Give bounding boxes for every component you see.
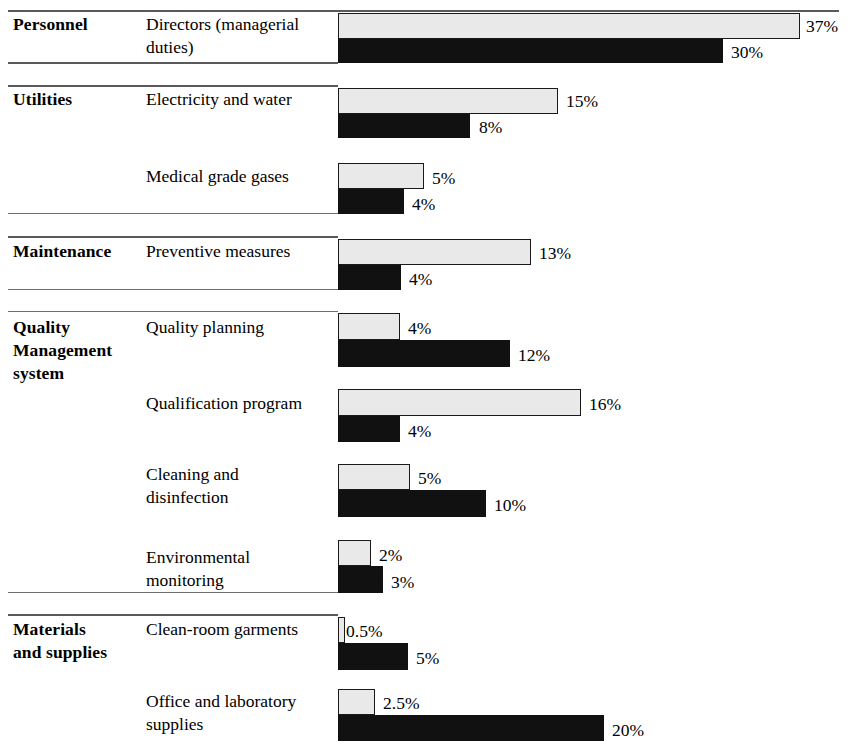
bar-office-light: [338, 689, 375, 715]
bar-quality-planning-dark: [338, 340, 510, 367]
section-rule-materials-top: [8, 614, 338, 616]
bar-directors-light: [338, 13, 800, 39]
bar-environmental-dark: [338, 566, 383, 593]
section-rule-qms-bottom: [8, 592, 338, 593]
group-label-maintenance-text: Maintenance: [13, 241, 111, 261]
bar-value-environmental-dark: 3%: [391, 574, 414, 592]
bar-qualification-dark: [338, 416, 400, 442]
section-rule-maintenance-top: [8, 236, 338, 238]
section-rule-personnel-bottom: [8, 62, 338, 64]
item-label-medical-grade-gases: Medical grade gases: [146, 165, 336, 188]
bar-directors-dark: [338, 39, 723, 63]
item-label-electricity-line1: Electricity and water: [146, 88, 336, 111]
group-label-utilities: Utilities: [13, 88, 141, 111]
bar-office-dark: [338, 715, 604, 741]
section-rule-top: [8, 10, 839, 12]
section-rule-maintenance-bottom: [8, 289, 338, 290]
group-label-materials-and-supplies: Materials and supplies: [13, 618, 141, 664]
group-label-qms-line3: system: [13, 362, 141, 385]
item-label-preventive-line1: Preventive measures: [146, 240, 336, 263]
item-label-environmental-line2: monitoring: [146, 569, 336, 592]
group-label-qms-line1: Quality: [13, 316, 141, 339]
bar-value-qualification-dark: 4%: [408, 423, 431, 441]
group-label-personnel: Personnel: [13, 13, 141, 36]
item-label-directors-line2: duties): [146, 36, 341, 59]
grouped-horizontal-bar-chart: Personnel Utilities Maintenance Quality …: [0, 0, 847, 741]
item-label-cleaning-and-disinfection: Cleaning and disinfection: [146, 463, 336, 509]
bar-value-quality-planning-dark: 12%: [518, 347, 550, 365]
item-label-office-line1: Office and laboratory: [146, 690, 336, 713]
item-label-quality-planning: Quality planning: [146, 316, 336, 339]
bar-value-garments-dark: 5%: [416, 650, 439, 668]
bar-value-quality-planning-light: 4%: [408, 320, 431, 338]
bar-value-cleaning-dark: 10%: [494, 497, 526, 515]
group-label-qms-line2: Management: [13, 339, 141, 362]
bar-value-medical-gases-light: 5%: [432, 170, 455, 188]
bar-electricity-dark: [338, 114, 470, 138]
bar-value-environmental-light: 2%: [379, 547, 402, 565]
bar-garments-dark: [338, 643, 408, 670]
bar-cleaning-light: [338, 464, 410, 490]
item-label-environmental-line1: Environmental: [146, 546, 336, 569]
item-label-qualification-program: Qualification program: [146, 392, 336, 415]
bar-value-electricity-light: 15%: [566, 93, 598, 111]
item-label-qualification-line1: Qualification program: [146, 392, 336, 415]
bar-value-preventive-dark: 4%: [409, 271, 432, 289]
item-label-medical-gases-line1: Medical grade gases: [146, 165, 336, 188]
item-label-cleaning-line2: disinfection: [146, 486, 336, 509]
bar-value-garments-light: 0.5%: [346, 623, 382, 641]
item-label-preventive-measures: Preventive measures: [146, 240, 336, 263]
group-label-materials-line2: and supplies: [13, 641, 141, 664]
item-label-environmental-monitoring: Environmental monitoring: [146, 546, 336, 592]
bar-value-electricity-dark: 8%: [479, 119, 502, 137]
item-label-quality-planning-line1: Quality planning: [146, 316, 336, 339]
bar-value-office-light: 2.5%: [383, 695, 419, 713]
section-rule-utilities-top: [8, 85, 338, 87]
group-label-personnel-text: Personnel: [13, 14, 88, 34]
bar-medical-gases-dark: [338, 189, 404, 214]
item-label-directors-line1: Directors (managerial: [146, 13, 341, 36]
bar-quality-planning-light: [338, 313, 400, 340]
bar-value-medical-gases-dark: 4%: [412, 196, 435, 214]
bar-medical-gases-light: [338, 163, 424, 189]
bar-preventive-dark: [338, 265, 401, 290]
item-label-office-line2: supplies: [146, 713, 336, 736]
bar-qualification-light: [338, 389, 581, 416]
item-label-garments-line1: Clean-room garments: [146, 618, 336, 641]
bar-value-office-dark: 20%: [612, 722, 644, 740]
item-label-electricity-and-water: Electricity and water: [146, 88, 336, 111]
bar-value-preventive-light: 13%: [539, 245, 571, 263]
bar-value-cleaning-light: 5%: [418, 470, 441, 488]
bar-electricity-light: [338, 88, 558, 114]
item-label-office-and-laboratory-supplies: Office and laboratory supplies: [146, 690, 336, 736]
bar-garments-light: [338, 617, 345, 643]
group-label-utilities-text: Utilities: [13, 89, 72, 109]
section-rule-qms-top: [8, 311, 338, 312]
bar-value-qualification-light: 16%: [589, 396, 621, 414]
group-label-maintenance: Maintenance: [13, 240, 141, 263]
bar-value-directors-light: 37%: [806, 18, 838, 36]
group-label-quality-management-system: Quality Management system: [13, 316, 141, 385]
bar-value-directors-dark: 30%: [731, 44, 763, 62]
item-label-clean-room-garments: Clean-room garments: [146, 618, 336, 641]
section-rule-utilities-bottom: [8, 213, 338, 214]
item-label-cleaning-line1: Cleaning and: [146, 463, 336, 486]
group-label-materials-line1: Materials: [13, 618, 141, 641]
bar-cleaning-dark: [338, 490, 486, 517]
bar-preventive-light: [338, 239, 531, 265]
item-label-directors: Directors (managerial duties): [146, 13, 341, 59]
bar-environmental-light: [338, 540, 371, 566]
